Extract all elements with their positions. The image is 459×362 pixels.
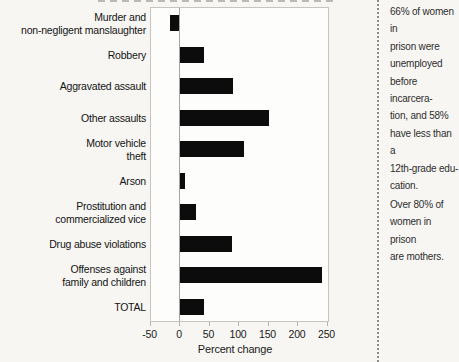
- chart-bar: [180, 204, 196, 220]
- x-tick-label: 200: [289, 328, 306, 340]
- x-tick-label: 100: [230, 328, 247, 340]
- x-tick-label: -50: [142, 328, 157, 340]
- chart-bar: [180, 267, 322, 283]
- category-label: Drug abuse violations: [0, 237, 146, 250]
- category-label: Prostitution and commercialized vice: [0, 200, 146, 225]
- x-tick-label: 250: [318, 328, 335, 340]
- category-label: Motor vehicle theft: [0, 137, 146, 162]
- sidebar-note-mothers: Over 80% of women in prison are mothers.: [390, 196, 459, 266]
- x-axis-tick: [209, 322, 210, 326]
- category-label: Aggravated assault: [0, 80, 146, 93]
- x-axis-tick: [268, 322, 269, 326]
- category-label: Offenses against family and children: [0, 263, 146, 288]
- chart-bar: [170, 15, 179, 31]
- x-tick-label: 0: [176, 328, 182, 340]
- category-label: TOTAL: [0, 300, 146, 313]
- chart-bar: [180, 47, 204, 63]
- chart-bar: [180, 141, 244, 157]
- x-axis-tick: [238, 322, 239, 326]
- x-tick-label: 50: [203, 328, 214, 340]
- cropped-title-remnant: [98, 0, 335, 2]
- chart-bar: [180, 236, 232, 252]
- x-axis-tick: [150, 322, 151, 326]
- x-axis-title: Percent change: [175, 343, 295, 355]
- x-axis-tick: [297, 322, 298, 326]
- category-label: Other assaults: [0, 111, 146, 124]
- chart-bar: [180, 110, 269, 126]
- category-label: Arson: [0, 174, 146, 187]
- sidebar-dotted-divider: [377, 0, 379, 362]
- scanned-book-figure: Murder and non-negligent manslaughterRob…: [0, 0, 459, 362]
- x-axis-tick: [327, 322, 328, 326]
- chart-bar: [180, 173, 185, 189]
- sidebar-note-unemployment: 66% of women in prison were unemployed b…: [390, 3, 459, 194]
- x-axis-tick: [179, 322, 180, 326]
- chart-bar: [180, 78, 233, 94]
- chart-bar: [180, 299, 204, 315]
- category-label: Murder and non-negligent manslaughter: [0, 11, 146, 36]
- x-tick-label: 150: [259, 328, 276, 340]
- category-label: Robbery: [0, 48, 146, 61]
